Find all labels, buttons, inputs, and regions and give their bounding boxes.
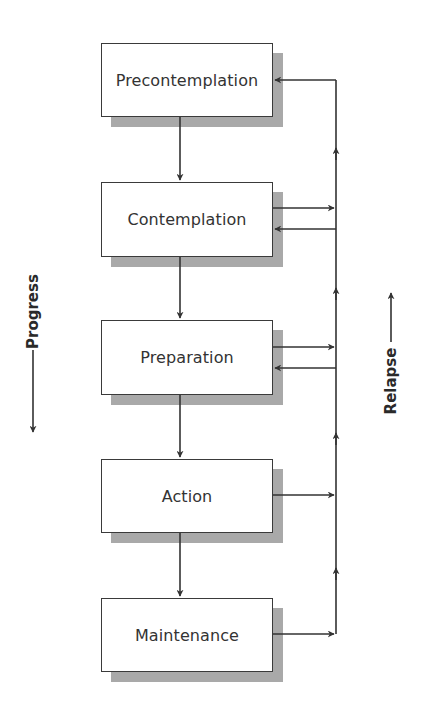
stage-label: Precontemplation: [116, 71, 259, 90]
stage-box-preparation: Preparation: [101, 320, 273, 395]
stage-box-precontemplation: Precontemplation: [101, 43, 273, 117]
progress-axis-label: Progress: [24, 277, 42, 349]
stage-label: Maintenance: [135, 626, 239, 645]
stage-label: Contemplation: [127, 210, 246, 229]
stage-label: Preparation: [140, 348, 234, 367]
stage-box-maintenance: Maintenance: [101, 598, 273, 672]
stages-of-change-diagram: Precontemplation Contemplation Preparati…: [0, 0, 429, 702]
stage-box-action: Action: [101, 459, 273, 533]
relapse-axis-label: Relapse: [382, 347, 400, 415]
stage-box-contemplation: Contemplation: [101, 182, 273, 257]
stage-label: Action: [162, 487, 213, 506]
